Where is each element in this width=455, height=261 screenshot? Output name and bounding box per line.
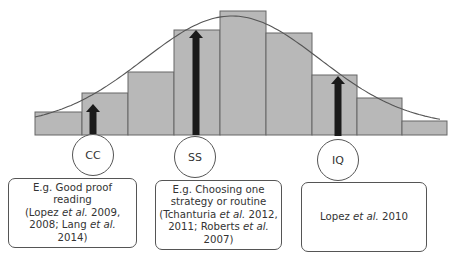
example-box-ss: E.g. Choosing onestrategy or routine(Tch… xyxy=(155,180,282,250)
text-line: 2008; Lang et al. xyxy=(12,219,133,232)
text-line: Lopez et al. 2010 xyxy=(320,211,408,224)
histogram-bar-3 xyxy=(128,72,174,135)
text-line: 2011; Roberts et al. xyxy=(159,221,277,234)
text-line: E.g. Good proof reading xyxy=(12,182,133,207)
text-line: (Lopez et al. 2009, xyxy=(12,207,133,220)
node-label: CC xyxy=(85,149,100,162)
example-text: Lopez et al. 2010 xyxy=(320,211,408,224)
histogram-bar-2 xyxy=(82,93,128,135)
node-iq: IQ xyxy=(317,139,359,181)
node-cc: CC xyxy=(72,134,114,176)
histogram-bar-9 xyxy=(402,121,447,135)
example-box-cc: E.g. Good proof reading(Lopez et al. 200… xyxy=(8,178,137,248)
text-line: 2014) xyxy=(12,232,133,245)
node-ss: SS xyxy=(174,136,216,178)
text-line: E.g. Choosing one xyxy=(159,184,277,197)
example-text: E.g. Choosing onestrategy or routine(Tch… xyxy=(159,184,277,247)
example-box-iq: Lopez et al. 2010 xyxy=(301,182,427,252)
histogram-bar-5 xyxy=(220,11,266,135)
text-line: strategy or routine xyxy=(159,196,277,209)
text-line: 2007) xyxy=(159,234,277,247)
node-label: IQ xyxy=(332,154,344,167)
histogram-bar-8 xyxy=(357,98,402,135)
text-line: (Tchanturia et al. 2012, xyxy=(159,209,277,222)
example-text: E.g. Good proof reading(Lopez et al. 200… xyxy=(12,182,133,245)
node-label: SS xyxy=(188,151,202,164)
histogram-bars xyxy=(35,11,447,135)
